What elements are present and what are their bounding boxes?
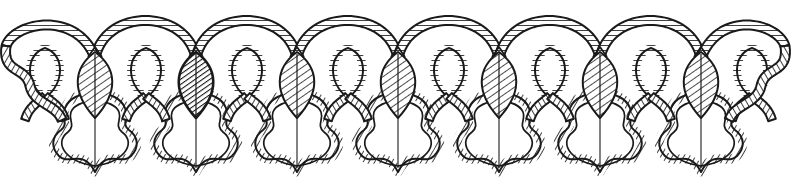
ornament-canvas: Repeating leaf-and-loop scalloped border… [0,0,791,180]
ornament-drawing [0,0,791,180]
